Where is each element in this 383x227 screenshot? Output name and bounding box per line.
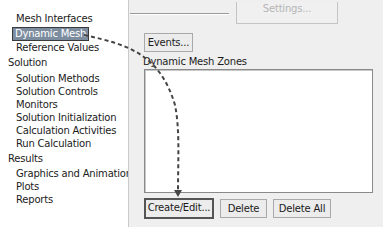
tree-item-calculation-activities[interactable]: Calculation Activities [16,125,116,137]
group-box-edge [130,13,229,15]
outline-tree: Mesh Interfaces Dynamic Mesh Reference V… [0,0,128,227]
tree-item-reports[interactable]: Reports [16,194,53,206]
tree-item-graphics-and-animations[interactable]: Graphics and Animations [16,168,137,180]
tree-item-results[interactable]: Results [8,153,43,165]
tree-item-dynamic-mesh[interactable]: Dynamic Mesh [13,28,88,40]
tree-item-solution-methods[interactable]: Solution Methods [16,73,99,85]
events-button[interactable]: Events... [144,33,193,52]
tree-item-solution-initialization[interactable]: Solution Initialization [16,112,116,124]
tree-item-solution[interactable]: Solution [8,57,47,69]
settings-button[interactable]: Settings... [236,2,338,24]
tree-item-monitors[interactable]: Monitors [16,99,58,111]
dynamic-mesh-zones-label: Dynamic Mesh Zones [143,56,247,67]
tree-item-solution-controls[interactable]: Solution Controls [16,86,98,98]
create-edit-button[interactable]: Create/Edit... [144,198,214,219]
delete-button[interactable]: Delete [220,199,267,218]
dynamic-mesh-zones-list[interactable] [144,69,373,193]
tree-item-plots[interactable]: Plots [16,181,39,193]
tree-item-mesh-interfaces[interactable]: Mesh Interfaces [16,13,93,25]
tree-item-run-calculation[interactable]: Run Calculation [16,138,91,150]
delete-all-button[interactable]: Delete All [273,199,331,218]
tree-item-reference-values[interactable]: Reference Values [16,42,99,54]
